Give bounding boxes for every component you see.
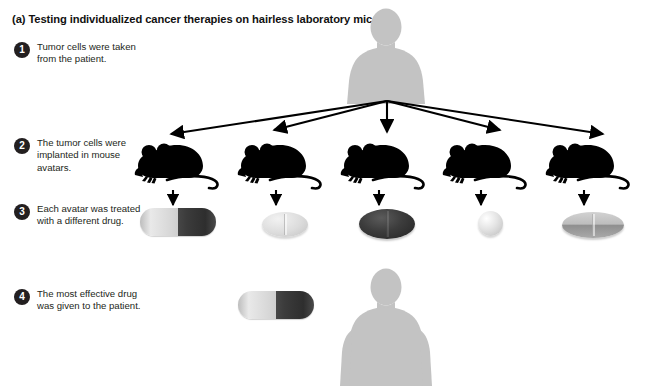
step-4-text: The most effective drug was given to the… [37, 288, 149, 313]
step-2-text: The tumor cells were implanted in mouse … [37, 137, 145, 174]
step-4: 4 The most effective drug was given to t… [14, 288, 149, 313]
patient-silhouette-bottom [330, 268, 442, 386]
step-1-text: Tumor cells were taken from the patient. [37, 41, 145, 66]
drug-tablet-2 [262, 212, 308, 237]
mouse-avatar-4 [441, 139, 537, 191]
step-3-text: Each avatar was treated with a different… [37, 203, 145, 228]
mouse-avatar-3 [339, 139, 435, 191]
drug-disc-5 [562, 212, 624, 238]
patient-silhouette-top [330, 8, 442, 104]
step-2: 2 The tumor cells were implanted in mous… [14, 137, 145, 174]
mouse-avatar-1 [133, 139, 229, 191]
drug-capsule-1 [140, 208, 216, 236]
score-line [284, 214, 287, 235]
mouse-avatar-2 [236, 139, 332, 191]
score-line [386, 211, 389, 236]
page-title: (a) Testing individualized cancer therap… [12, 13, 378, 25]
figure-panel-a: (a) Testing individualized cancer therap… [0, 0, 656, 386]
mouse-avatar-5 [544, 139, 640, 191]
score-line [592, 214, 595, 236]
step-1-badge: 1 [14, 42, 30, 58]
step-4-badge: 4 [14, 289, 30, 305]
step-3-badge: 3 [14, 204, 30, 220]
step-2-badge: 2 [14, 138, 30, 154]
drug-tablet-3 [359, 209, 415, 239]
selected-drug-capsule [238, 291, 314, 319]
step-3: 3 Each avatar was treated with a differe… [14, 203, 145, 228]
drug-sphere-4 [478, 211, 503, 236]
step-1: 1 Tumor cells were taken from the patien… [14, 41, 145, 66]
